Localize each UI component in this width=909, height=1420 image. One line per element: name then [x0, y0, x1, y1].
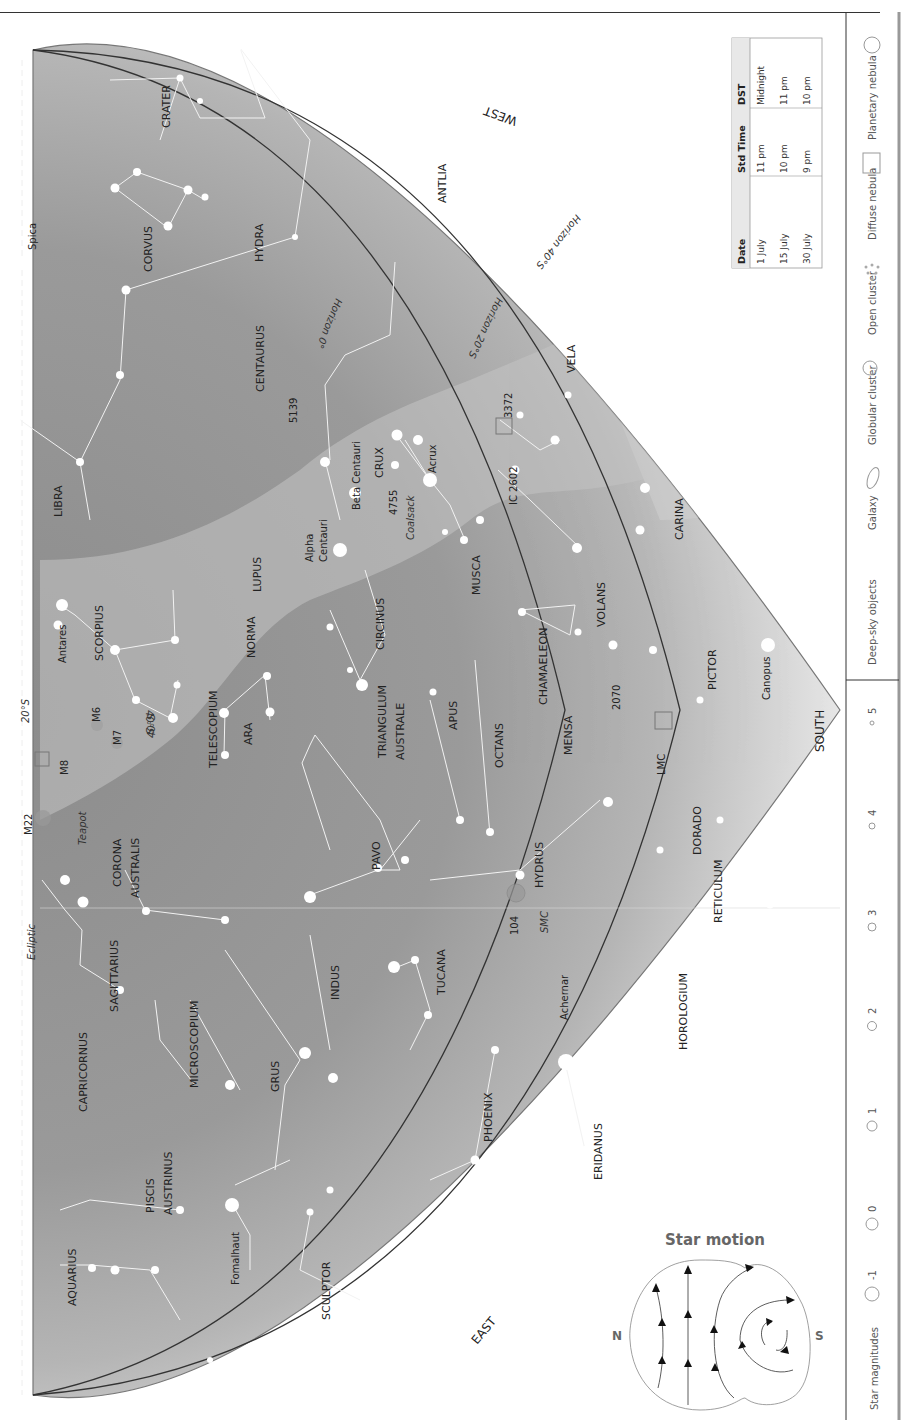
star-motion-title: Star motion [665, 1231, 765, 1249]
label-m8: M8 [59, 760, 70, 775]
label-pavo: PAVO [370, 841, 383, 870]
label-2070: 2070 [611, 685, 622, 710]
star-motion-inset: Star motion N S [612, 1231, 824, 1410]
magnitude-label: 1 [867, 1108, 878, 1114]
label-smc: SMC [539, 911, 550, 933]
table-cell: 10 pm [779, 144, 789, 173]
table-header-dst: DST [736, 83, 747, 105]
label-musca: MUSCA [470, 555, 483, 595]
label-apus: APUS [447, 701, 460, 730]
label-reticulum: RETICULUM [712, 860, 725, 923]
label-coalsack: Coalsack [405, 494, 416, 540]
label-west: WEST [481, 103, 519, 128]
label-microscopium: MICROSCOPIUM [188, 1001, 201, 1088]
magnitude-label: 5 [867, 708, 878, 714]
label-m7: M7 [112, 730, 123, 745]
label-4755: 4755 [388, 490, 399, 515]
legend-star-magnitudes-label: Star magnitudes [869, 1327, 880, 1410]
label-australe: AUSTRALE [394, 703, 407, 760]
label-crux: CRUX [373, 447, 386, 478]
label-octans: OCTANS [493, 723, 506, 768]
label-crater: CRATER [160, 85, 173, 128]
label-ic2602: IC 2602 [508, 466, 519, 505]
label-sagittarius: SAGITTARIUS [108, 940, 121, 1012]
label-3372: 3372 [503, 393, 514, 418]
table-cell: 11 pm [779, 76, 789, 105]
label-volans: VOLANS [595, 582, 608, 627]
magnitude-label: 3 [867, 910, 878, 916]
label-hydrus: HYDRUS [533, 842, 546, 888]
label-south: SOUTH [813, 710, 827, 752]
star-map: CRATER CORVUS HYDRA ANTLIA VELA CENTAURU… [0, 0, 909, 1420]
label-centaurus: CENTAURUS [254, 325, 267, 392]
label-telescopium: TELESCOPIUM [207, 691, 220, 770]
label-fomalhaut: Fomalhaut [230, 1232, 241, 1285]
star-motion-south: S [815, 1329, 824, 1343]
label-grus: GRUS [269, 1061, 282, 1092]
label-austrinus: AUSTRINUS [162, 1152, 175, 1215]
table-cell: 1 July [756, 239, 766, 264]
ngc104-cluster [507, 884, 525, 902]
legend-globular-label: Globular cluster [867, 365, 878, 445]
label-chamaeleon: CHAMAELEON [537, 628, 550, 705]
table-header-date: Date [736, 239, 747, 264]
label-beta-centauri: Beta Centauri [351, 441, 362, 510]
label-mensa: MENSA [562, 715, 575, 755]
magnitude-label: 4 [867, 810, 878, 816]
label-australis: AUSTRALIS [129, 838, 142, 898]
table-cell: Midnight [756, 65, 766, 105]
label-achernar: Achernar [559, 974, 570, 1020]
label-tucana: TUCANA [435, 949, 448, 996]
label-sculptor: SCULPTOR [320, 1261, 333, 1320]
legend-galaxy-label: Galaxy [867, 495, 878, 530]
magnitude-label: 0 [867, 1206, 878, 1212]
table-cell: 15 July [779, 233, 789, 264]
label-dorado: DORADO [691, 806, 704, 855]
label-libra: LIBRA [52, 485, 65, 517]
label-phoenix: PHOENIX [482, 1092, 495, 1142]
label-canopus: Canopus [761, 657, 772, 700]
label-piscis: PISCIS [144, 1178, 157, 1213]
label-alpha: Alpha [304, 534, 315, 562]
label-pictor: PICTOR [706, 649, 719, 690]
label-lat-40s-b: 40°S [146, 713, 157, 738]
label-triangulum: TRIANGULUM [376, 685, 389, 759]
label-vela: VELA [565, 344, 578, 373]
legend-strip: Star magnitudes -1 0 1 2 3 4 5 Deep-sky … [846, 12, 899, 1420]
m22-cluster [35, 810, 51, 826]
label-horizon-40s: Horizon 40°S [534, 213, 583, 272]
label-eridanus: ERIDANUS [592, 1123, 605, 1180]
label-east: EAST [469, 1314, 500, 1347]
legend-deep-sky-label: Deep-sky objects [867, 579, 878, 665]
table-cell: 9 pm [802, 150, 812, 173]
label-scorpius: SCORPIUS [93, 605, 106, 661]
label-spica: Spica [27, 223, 38, 250]
label-corvus: CORVUS [142, 226, 155, 272]
label-circinus: CIRCINUS [374, 598, 387, 650]
table-header-std: Std Time [736, 125, 747, 173]
label-ara: ARA [242, 722, 255, 745]
label-5139: 5139 [288, 398, 299, 423]
label-teapot: Teapot [77, 810, 88, 845]
label-m6: M6 [91, 707, 102, 722]
planetary-nebula-circle-icon [864, 37, 880, 53]
legend-diffuse-label: Diffuse nebula [867, 168, 878, 240]
legend-planetary-label: Planetary nebula [867, 55, 878, 140]
label-acrux: Acrux [427, 444, 438, 473]
magnitude-label: -1 [867, 1270, 878, 1280]
label-antlia: ANTLIA [436, 163, 449, 203]
magnitude-label: 2 [867, 1008, 878, 1014]
label-norma: NORMA [245, 616, 258, 658]
label-carina: CARINA [673, 498, 686, 540]
label-corona: CORONA [111, 838, 124, 887]
label-ecliptic: Ecliptic [26, 924, 37, 960]
galaxy-ellipse-icon [865, 466, 882, 490]
star-motion-north: N [612, 1329, 622, 1343]
label-m22: M22 [23, 814, 34, 835]
label-horologium: HOROLOGIUM [677, 973, 690, 1050]
label-indus: INDUS [329, 965, 342, 1000]
time-table: Date Std Time DST 1 July 15 July 30 July… [732, 38, 822, 268]
label-hydra: HYDRA [253, 223, 266, 262]
label-104: 104 [509, 916, 520, 935]
table-cell: 10 pm [802, 76, 812, 105]
